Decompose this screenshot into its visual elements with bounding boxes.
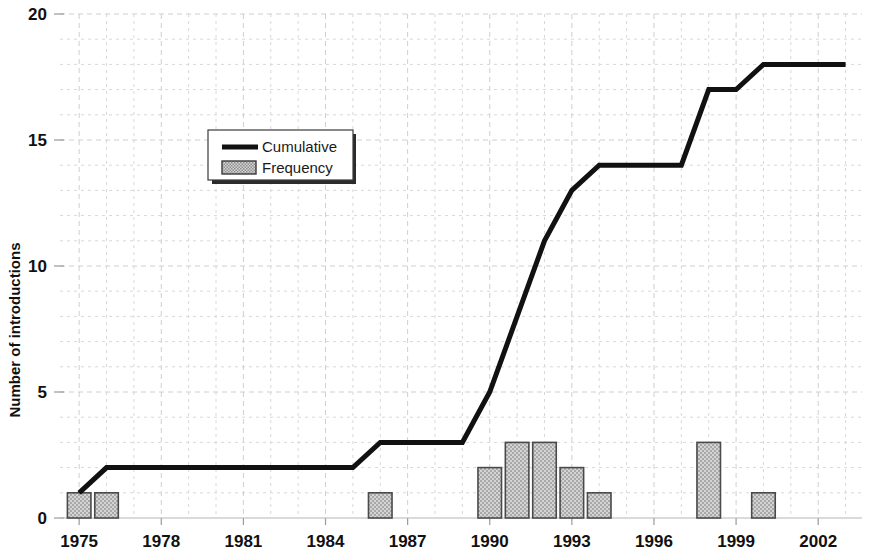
y-tick-label: 10 xyxy=(28,257,47,276)
y-axis-title: Number of introductions xyxy=(6,243,23,418)
frequency-bar xyxy=(560,468,584,518)
y-tick-label: 20 xyxy=(28,5,47,24)
x-tick-label: 1975 xyxy=(60,532,98,551)
x-tick-label: 1996 xyxy=(635,532,673,551)
frequency-bar xyxy=(368,493,392,518)
frequency-bar xyxy=(95,493,119,518)
introductions-chart: 05101520 1975197819811984198719901993199… xyxy=(0,0,871,556)
x-tick-label: 1999 xyxy=(717,532,755,551)
y-tick-label: 0 xyxy=(38,509,47,528)
frequency-bar xyxy=(478,468,502,518)
legend-shadow xyxy=(212,180,354,184)
frequency-bar xyxy=(697,442,721,518)
y-tick-label: 15 xyxy=(28,131,47,150)
chart-container: 05101520 1975197819811984198719901993199… xyxy=(0,0,871,556)
frequency-bar xyxy=(533,442,557,518)
y-tick-label: 5 xyxy=(38,383,47,402)
x-tick-label: 1978 xyxy=(142,532,180,551)
frequency-bar xyxy=(505,442,529,518)
x-tick-label: 2002 xyxy=(799,532,837,551)
legend-marker-frequency xyxy=(222,161,256,174)
frequency-bar xyxy=(67,493,91,518)
x-tick-label: 1987 xyxy=(389,532,427,551)
legend-label-cumulative: Cumulative xyxy=(262,138,337,155)
frequency-bar xyxy=(752,493,776,518)
legend-label-frequency: Frequency xyxy=(262,159,333,176)
x-tick-label: 1981 xyxy=(224,532,262,551)
legend: Cumulative Frequency xyxy=(208,130,356,184)
x-tick-label: 1984 xyxy=(307,532,345,551)
x-tick-label: 1990 xyxy=(471,532,509,551)
frequency-bar xyxy=(587,493,611,518)
x-tick-label: 1993 xyxy=(553,532,591,551)
